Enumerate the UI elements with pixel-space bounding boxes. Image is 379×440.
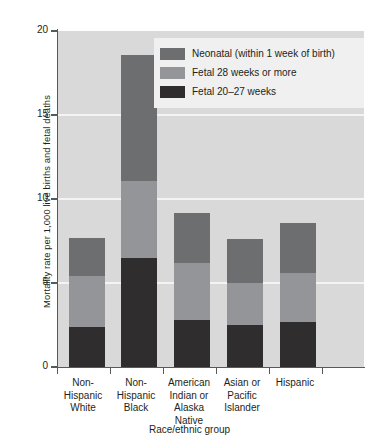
legend-item-fetal20: Fetal 20–27 weeks <box>160 82 360 101</box>
bar-segment-neonatal <box>174 213 210 263</box>
x-axis-line <box>57 367 365 368</box>
bar-non-hispanic-black[interactable] <box>121 55 157 367</box>
x-tick-mark-4 <box>269 368 270 374</box>
x-label-line: Hispanic <box>256 377 334 390</box>
x-tick-mark-2 <box>163 368 164 374</box>
bar-segment-fetal20 <box>121 258 157 367</box>
legend-item-neonatal: Neonatal (within 1 week of birth) <box>160 44 360 63</box>
bar-segment-neonatal <box>69 238 105 277</box>
legend-swatch-fetal28 <box>160 67 185 79</box>
bar-segment-fetal28 <box>69 276 105 326</box>
bar-segment-fetal20 <box>174 320 210 367</box>
x-tick-mark-3 <box>216 368 217 374</box>
bar-segment-neonatal <box>227 239 263 283</box>
x-tick-mark-1 <box>110 368 111 374</box>
bar-segment-fetal20 <box>280 322 316 367</box>
x-label-line: Islander <box>203 402 281 415</box>
x-tick-mark-5 <box>322 368 323 374</box>
y-tick-mark-20 <box>51 30 58 31</box>
y-tick-label-15: 15 <box>22 109 48 119</box>
bar-segment-neonatal <box>280 223 316 273</box>
legend-swatch-neonatal <box>160 48 185 60</box>
bar-segment-fetal28 <box>227 283 263 325</box>
legend-swatch-fetal20 <box>160 86 185 98</box>
y-tick-label-0: 0 <box>22 361 48 371</box>
bar-segment-fetal28 <box>121 181 157 258</box>
x-category-label-hispanic: Hispanic <box>256 377 334 390</box>
bar-segment-neonatal <box>121 55 157 181</box>
bar-segment-fetal28 <box>280 273 316 322</box>
bar-non-hispanic-white[interactable] <box>69 238 105 367</box>
y-tick-mark-10 <box>51 198 58 199</box>
legend-label-fetal20: Fetal 20–27 weeks <box>192 86 276 97</box>
gridline-15 <box>58 114 364 116</box>
legend-item-fetal28: Fetal 28 weeks or more <box>160 63 360 82</box>
y-tick-label-10: 10 <box>22 193 48 203</box>
bar-asian-pacific-islander[interactable] <box>227 239 263 367</box>
y-tick-mark-5 <box>51 282 58 283</box>
x-label-line: Pacific <box>203 390 281 403</box>
bar-american-indian-alaska-native[interactable] <box>174 213 210 367</box>
bar-hispanic[interactable] <box>280 223 316 367</box>
bar-segment-fetal20 <box>227 325 263 367</box>
stacked-bar-chart: Mortality rate per 1,000 live births and… <box>0 0 379 440</box>
gridline-10 <box>58 198 364 200</box>
x-axis-title: Race/ethnic group <box>0 424 379 435</box>
y-tick-mark-15 <box>51 114 58 115</box>
x-tick-mark-0 <box>57 368 58 374</box>
chart-legend: Neonatal (within 1 week of birth) Fetal … <box>154 38 364 108</box>
bar-segment-fetal20 <box>69 327 105 367</box>
legend-label-fetal28: Fetal 28 weeks or more <box>192 67 297 78</box>
plot-area: Neonatal (within 1 week of birth) Fetal … <box>58 31 364 367</box>
y-tick-label-5: 5 <box>22 277 48 287</box>
legend-label-neonatal: Neonatal (within 1 week of birth) <box>192 48 335 59</box>
bar-segment-fetal28 <box>174 263 210 320</box>
y-tick-label-20: 20 <box>22 25 48 35</box>
